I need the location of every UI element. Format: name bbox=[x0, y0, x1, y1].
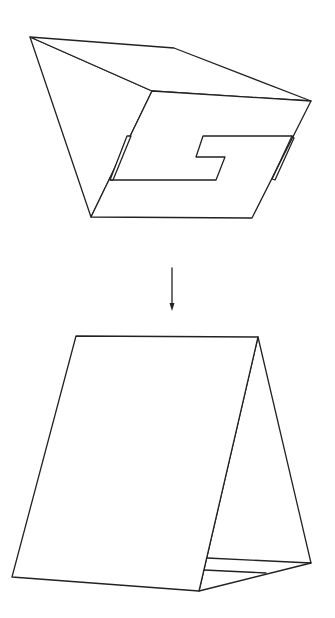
arrow-down-icon bbox=[170, 268, 175, 311]
step-2-tent-card bbox=[12, 336, 311, 591]
step-1-folded-card bbox=[30, 37, 311, 218]
diagram-canvas bbox=[0, 0, 335, 618]
